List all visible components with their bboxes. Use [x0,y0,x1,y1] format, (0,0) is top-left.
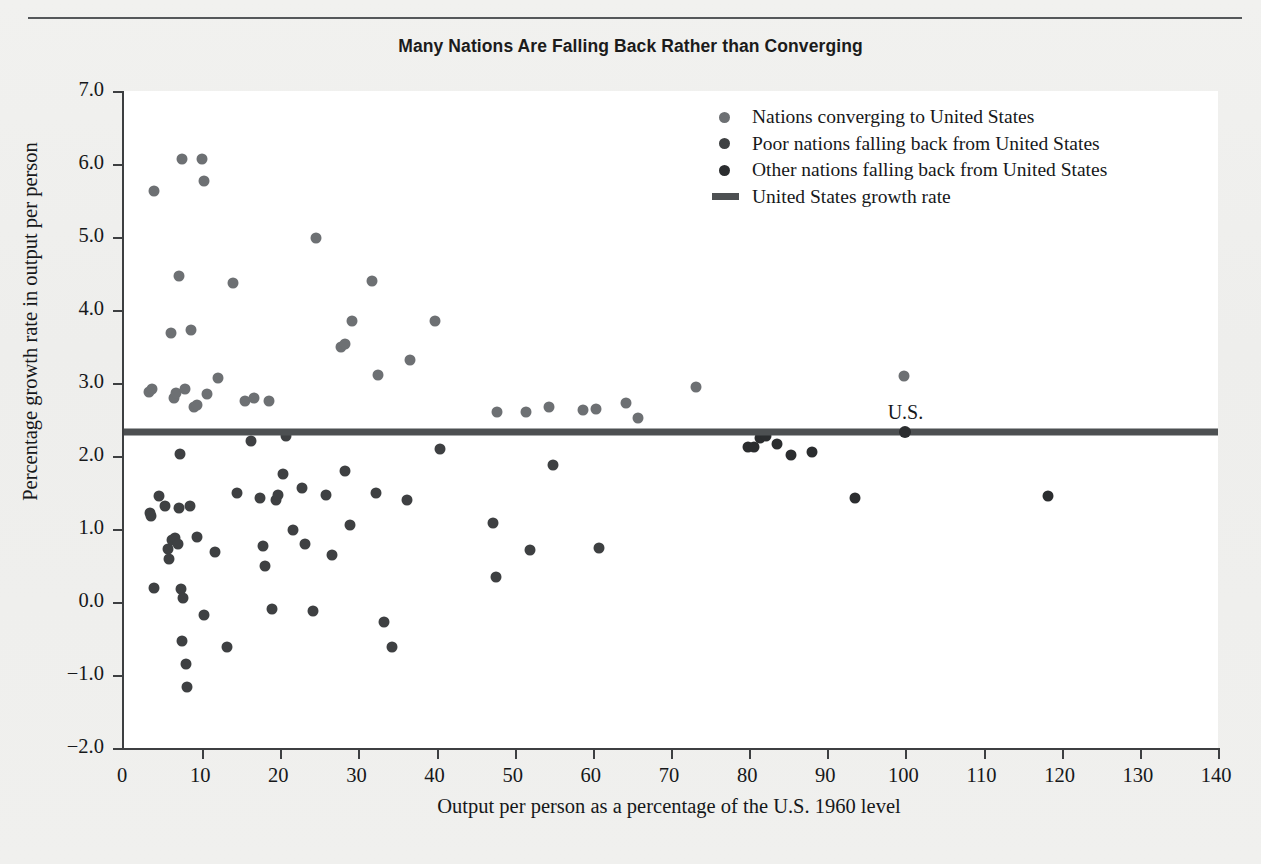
x-tick-label: 130 [1108,764,1168,787]
scatter-point [621,397,632,408]
scatter-point [807,446,818,457]
x-tick-mark [437,748,439,759]
scatter-point [147,383,158,394]
scatter-point [164,553,175,564]
scatter-point [340,466,351,477]
scatter-point [178,593,189,604]
scatter-point [491,407,502,418]
scatter-point [199,175,210,186]
y-tick-label: 1.0 [30,516,104,539]
legend-item[interactable]: Other nations falling back from United S… [718,157,1107,184]
legend-item[interactable]: Poor nations falling back from United St… [718,131,1107,158]
y-tick-mark [113,91,124,93]
legend-item-label: Poor nations falling back from United St… [752,133,1100,155]
y-tick-label: −1.0 [30,662,104,685]
us-growth-rate-line [124,428,1218,435]
scatter-point [184,500,195,511]
scatter-point [212,372,223,383]
scatter-point [405,355,416,366]
scatter-point [387,641,398,652]
x-tick-label: 60 [561,764,621,787]
x-tick-mark [671,748,673,759]
y-tick-label: 5.0 [30,224,104,247]
legend-item[interactable]: United States growth rate [718,184,1107,211]
legend-item[interactable]: Nations converging to United States [718,104,1107,131]
us-annotation-label: U.S. [888,401,924,424]
x-tick-label: 120 [1030,764,1090,787]
y-tick-label: 2.0 [30,443,104,466]
x-tick-label: 80 [717,764,777,787]
scatter-point [197,153,208,164]
scatter-point [148,186,159,197]
legend-dot-icon [719,112,730,123]
scatter-point [544,402,555,413]
scatter-point [577,405,588,416]
scatter-point [898,371,909,382]
scatter-point [173,502,184,513]
y-tick-mark [113,456,124,458]
x-tick-label: 140 [1186,764,1246,787]
scatter-point [180,659,191,670]
x-tick-mark [593,748,595,759]
scatter-point [772,439,783,450]
scatter-point [434,444,445,455]
scatter-point [430,315,441,326]
scatter-point [297,483,308,494]
scatter-point [266,603,277,614]
scatter-point [175,448,186,459]
us-data-point [899,426,911,438]
x-tick-label: 20 [248,764,308,787]
scatter-point [232,488,243,499]
scatter-point [633,413,644,424]
scatter-point [340,338,351,349]
y-tick-label: 6.0 [30,151,104,174]
scatter-point [521,407,532,418]
scatter-point [594,542,605,553]
scatter-point [372,369,383,380]
x-tick-label: 70 [639,764,699,787]
scatter-point [254,493,265,504]
x-tick-mark [749,748,751,759]
x-tick-mark [984,748,986,759]
y-tick-label: 0.0 [30,589,104,612]
scatter-point [785,449,796,460]
y-axis-title: Percentage growth rate in output per per… [19,0,42,822]
scatter-point [174,271,185,282]
scatter-point [1042,491,1053,502]
scatter-point [311,233,322,244]
x-tick-label: 50 [483,764,543,787]
scatter-point [176,153,187,164]
scatter-point [246,435,257,446]
y-tick-label: −2.0 [30,735,104,758]
scatter-point [748,442,759,453]
scatter-point [379,616,390,627]
scatter-point [258,540,269,551]
scatter-point [160,500,171,511]
y-tick-mark [113,237,124,239]
scatter-point [199,610,210,621]
x-tick-mark [515,748,517,759]
scatter-point [370,487,381,498]
legend-dot-icon [719,138,730,149]
scatter-point [590,403,601,414]
scatter-point [524,545,535,556]
x-tick-label: 30 [326,764,386,787]
scatter-point [186,324,197,335]
top-divider-rule [28,17,1242,19]
scatter-point [209,547,220,558]
scatter-point [691,381,702,392]
scatter-point [401,494,412,505]
x-tick-mark [202,748,204,759]
y-tick-label: 7.0 [30,78,104,101]
scatter-point [287,524,298,535]
y-tick-mark [113,748,124,750]
x-tick-mark [1140,748,1142,759]
x-tick-label: 10 [170,764,230,787]
scatter-point [176,636,187,647]
x-tick-label: 110 [952,764,1012,787]
scatter-point [249,393,260,404]
figure-page: Many Nations Are Falling Back Rather tha… [0,0,1261,864]
y-tick-mark [113,529,124,531]
scatter-point [179,383,190,394]
scatter-point [849,492,860,503]
